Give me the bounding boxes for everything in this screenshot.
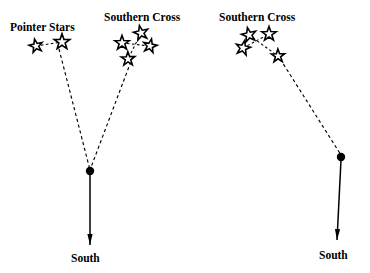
convergence-point-right xyxy=(337,153,345,161)
star-icon xyxy=(236,41,250,55)
pointer-stars-label: Pointer Stars xyxy=(10,21,75,33)
south-label-left: South xyxy=(71,252,100,264)
convergence-point-left xyxy=(86,167,94,175)
star-icon xyxy=(144,39,157,53)
star-icon xyxy=(54,34,70,49)
south-label-right: South xyxy=(319,249,348,261)
star-icon xyxy=(133,26,147,40)
sight-lines-left xyxy=(59,49,133,170)
arrow-shaft xyxy=(337,160,341,240)
astronomy-diagram: Pointer Stars Southern Cross South South… xyxy=(0,0,370,273)
star-icon xyxy=(115,35,129,49)
star-icon xyxy=(271,49,284,62)
constellation-links-left xyxy=(36,33,150,59)
sight-lines-right xyxy=(277,54,341,155)
south-arrow-right xyxy=(335,160,341,240)
left-panel: Pointer Stars Southern Cross South xyxy=(10,11,181,264)
star-group-right xyxy=(236,26,284,61)
arrow-head-icon xyxy=(87,234,92,245)
cross-sight-line-right xyxy=(277,54,341,155)
star-icon xyxy=(262,26,276,40)
star-icon xyxy=(241,28,255,42)
south-arrow-left xyxy=(87,174,92,245)
diagram-canvas: Pointer Stars Southern Cross South South… xyxy=(0,0,370,273)
right-panel: Southern Cross South xyxy=(219,11,348,261)
southern-cross-label-left: Southern Cross xyxy=(104,11,181,23)
pointer-sight-line xyxy=(59,49,90,170)
cross-sight-line xyxy=(90,56,133,170)
star-icon xyxy=(121,52,135,65)
southern-cross-label-right: Southern Cross xyxy=(219,11,296,23)
star-icon xyxy=(29,39,42,52)
